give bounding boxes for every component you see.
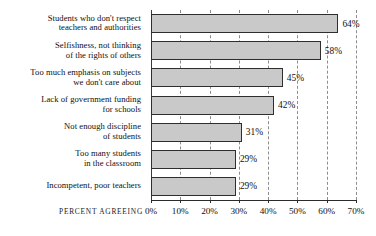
category-label: Students who don't respectteachers and a…	[0, 14, 141, 34]
bar[interactable]	[151, 41, 321, 60]
bar-value-label: 29%	[240, 181, 257, 191]
x-axis-tick-label: 30%	[230, 206, 247, 216]
x-axis-tick-label: 70%	[348, 206, 365, 216]
bar[interactable]	[151, 14, 338, 33]
x-axis-tick-30pct	[239, 200, 240, 203]
x-axis-tick-10pct	[180, 200, 181, 203]
bar-row[interactable]: 42%	[151, 96, 356, 115]
bar[interactable]	[151, 177, 236, 196]
x-axis-tick-label: 50%	[289, 206, 306, 216]
bar[interactable]	[151, 150, 236, 169]
category-label: Not enough disciplineof students	[0, 122, 141, 142]
bar-row[interactable]: 58%	[151, 41, 356, 60]
x-axis-tick-20pct	[210, 200, 211, 203]
x-axis-tick-40pct	[268, 200, 269, 203]
x-axis-tick-label: 60%	[318, 206, 335, 216]
x-axis-tick-50pct	[297, 200, 298, 203]
bar-row[interactable]: 45%	[151, 68, 356, 87]
bar-value-label: 42%	[278, 100, 295, 110]
category-label: Lack of government fundingfor schools	[0, 95, 141, 115]
plot-area: 64%58%45%42%31%29%29%	[151, 10, 356, 200]
x-axis-tick-0pct	[151, 200, 152, 203]
bar[interactable]	[151, 96, 274, 115]
bar-row[interactable]: 29%	[151, 177, 356, 196]
x-axis-tick-label: 20%	[201, 206, 218, 216]
category-label: Too many studentsin the classroom	[0, 149, 141, 169]
category-label: Incompetent, poor teachers	[0, 182, 141, 192]
x-axis-line	[151, 200, 356, 201]
bar[interactable]	[151, 123, 242, 142]
category-label: Too much emphasis on subjectswe don't ca…	[0, 68, 141, 88]
bar-row[interactable]: 29%	[151, 150, 356, 169]
bar-value-label: 64%	[342, 19, 359, 29]
bar-value-label: 29%	[240, 154, 257, 164]
bar-chart: Students who don't respectteachers and a…	[0, 0, 376, 236]
bar-row[interactable]: 31%	[151, 123, 356, 142]
bar-value-label: 58%	[325, 46, 342, 56]
x-axis-tick-label: 0%	[145, 206, 157, 216]
x-axis-tick-60pct	[327, 200, 328, 203]
x-axis-tick-label: 40%	[260, 206, 277, 216]
bar-value-label: 45%	[287, 73, 304, 83]
bar[interactable]	[151, 68, 283, 87]
x-axis-tick-label: 10%	[172, 206, 189, 216]
bar-value-label: 31%	[246, 127, 263, 137]
gridline-70pct	[356, 10, 357, 200]
x-axis-title: PERCENT AGREEING	[59, 207, 143, 216]
category-label-column: Students who don't respectteachers and a…	[0, 10, 146, 200]
category-label: Selfishness, not thinkingof the rights o…	[0, 41, 141, 61]
bar-row[interactable]: 64%	[151, 14, 356, 33]
x-axis-tick-70pct	[356, 200, 357, 203]
